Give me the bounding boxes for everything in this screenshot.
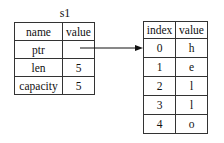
pointer-arrow-icon — [0, 0, 224, 143]
